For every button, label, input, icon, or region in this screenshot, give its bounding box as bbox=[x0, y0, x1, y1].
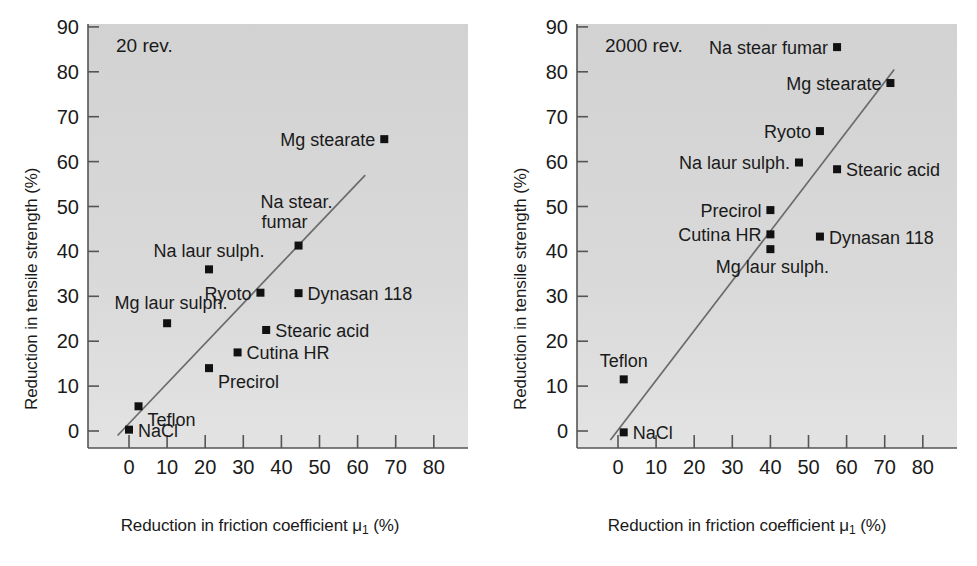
x-axis-title-text: Reduction in friction coefficient bbox=[121, 516, 348, 535]
data-point-marker bbox=[295, 242, 303, 250]
x-axis-tick-label: 20 bbox=[194, 456, 216, 478]
y-axis-tick-label: 60 bbox=[57, 151, 79, 173]
data-point-label: Ryoto bbox=[204, 284, 251, 304]
y-axis-tick-label: 90 bbox=[546, 16, 568, 38]
x-axis-tick-label: 30 bbox=[721, 456, 743, 478]
x-axis-title-text: Reduction in friction coefficient bbox=[608, 516, 835, 535]
y-axis-tick-label: 80 bbox=[546, 61, 568, 83]
panel-title: 20 rev. bbox=[116, 35, 173, 56]
data-point-marker bbox=[295, 289, 303, 297]
y-axis-tick-label: 90 bbox=[57, 16, 79, 38]
data-point-marker bbox=[234, 348, 242, 356]
data-point-marker bbox=[163, 319, 171, 327]
y-axis-tick-label: 0 bbox=[557, 420, 568, 442]
data-point-label: Na stear fumar bbox=[709, 38, 828, 58]
x-axis-tick-label: 0 bbox=[123, 456, 134, 478]
y-axis-tick-label: 10 bbox=[546, 375, 568, 397]
x-axis-title-unit: (%) bbox=[373, 516, 399, 535]
x-axis-tick-label: 10 bbox=[645, 456, 667, 478]
x-axis-title: Reduction in friction coefficient μ1 (%) bbox=[60, 516, 460, 537]
x-axis-tick-label: 80 bbox=[423, 456, 445, 478]
figure-two-panel-scatter: 01020304050607080900102030405060708020 r… bbox=[0, 0, 977, 566]
mu-subscript: 1 bbox=[849, 523, 856, 537]
data-point-label: Precirol bbox=[700, 201, 761, 221]
x-axis-tick-label: 70 bbox=[874, 456, 896, 478]
data-point-marker bbox=[833, 165, 841, 173]
x-axis-tick-label: 60 bbox=[346, 456, 368, 478]
x-axis-tick-label: 30 bbox=[232, 456, 254, 478]
x-axis-tick-label: 50 bbox=[797, 456, 819, 478]
y-axis-tick-label: 80 bbox=[57, 61, 79, 83]
data-point-label: Na laur sulph. bbox=[153, 241, 264, 261]
data-point-label: Dynasan 118 bbox=[829, 228, 934, 248]
mu-symbol: μ bbox=[839, 516, 849, 535]
data-point-label: Stearic acid bbox=[846, 160, 940, 180]
data-point-label: Cutina HR bbox=[247, 343, 330, 363]
y-axis-tick-label: 30 bbox=[546, 285, 568, 307]
data-point-label: Stearic acid bbox=[275, 321, 369, 341]
data-point-label: Cutina HR bbox=[678, 225, 761, 245]
y-axis-tick-label: 40 bbox=[546, 240, 568, 262]
data-point-label: Ryoto bbox=[764, 122, 811, 142]
x-axis-tick-label: 40 bbox=[759, 456, 781, 478]
data-point-marker bbox=[766, 245, 774, 253]
data-point-label: fumar bbox=[262, 212, 308, 232]
x-axis-title-unit: (%) bbox=[860, 516, 886, 535]
data-point-label: Na laur sulph. bbox=[679, 153, 790, 173]
data-point-marker bbox=[833, 43, 841, 51]
data-point-marker bbox=[205, 364, 213, 372]
data-point-marker bbox=[620, 428, 628, 436]
data-point-label: Teflon bbox=[148, 410, 196, 430]
data-point-label: Na stear. bbox=[261, 192, 333, 212]
y-axis-tick-label: 70 bbox=[546, 106, 568, 128]
scatter-plot-2000-rev: 0102030405060708090010203040506070802000… bbox=[489, 0, 977, 566]
data-point-marker bbox=[816, 233, 824, 241]
data-point-marker bbox=[256, 289, 264, 297]
y-axis-tick-label: 0 bbox=[68, 420, 79, 442]
data-point-label: Mg stearate bbox=[786, 74, 881, 94]
y-axis-tick-label: 40 bbox=[57, 240, 79, 262]
data-point-marker bbox=[816, 127, 824, 135]
chart-panel-2000-rev: 0102030405060708090010203040506070802000… bbox=[489, 0, 977, 566]
data-point-label: Teflon bbox=[600, 351, 648, 371]
y-axis-title: Reduction in tensile strength (%) bbox=[511, 168, 531, 410]
y-axis-tick-label: 50 bbox=[57, 196, 79, 218]
data-point-label: Dynasan 118 bbox=[308, 284, 413, 304]
x-axis-tick-label: 50 bbox=[308, 456, 330, 478]
x-axis-tick-label: 0 bbox=[612, 456, 623, 478]
data-point-label: Precirol bbox=[218, 372, 279, 392]
data-point-label: Mg laur sulph. bbox=[716, 257, 829, 277]
chart-panel-20-rev: 01020304050607080900102030405060708020 r… bbox=[0, 0, 488, 566]
data-point-marker bbox=[766, 206, 774, 214]
data-point-marker bbox=[886, 79, 894, 87]
y-axis-tick-label: 60 bbox=[546, 151, 568, 173]
data-point-label: NaCl bbox=[633, 423, 673, 443]
x-axis-tick-label: 40 bbox=[270, 456, 292, 478]
x-axis-title: Reduction in friction coefficient μ1 (%) bbox=[547, 516, 947, 537]
x-axis-tick-label: 80 bbox=[912, 456, 934, 478]
data-point-marker bbox=[766, 230, 774, 238]
x-axis-tick-label: 20 bbox=[683, 456, 705, 478]
data-point-marker bbox=[380, 135, 388, 143]
x-axis-tick-label: 10 bbox=[156, 456, 178, 478]
x-axis-tick-label: 60 bbox=[835, 456, 857, 478]
y-axis-tick-label: 20 bbox=[546, 330, 568, 352]
data-point-marker bbox=[262, 326, 270, 334]
data-point-marker bbox=[620, 375, 628, 383]
y-axis-tick-label: 30 bbox=[57, 285, 79, 307]
x-axis-tick-label: 70 bbox=[385, 456, 407, 478]
panel-title: 2000 rev. bbox=[605, 35, 683, 56]
y-axis-tick-label: 50 bbox=[546, 196, 568, 218]
y-axis-tick-label: 20 bbox=[57, 330, 79, 352]
y-axis-tick-label: 70 bbox=[57, 106, 79, 128]
scatter-plot-20-rev: 01020304050607080900102030405060708020 r… bbox=[0, 0, 488, 566]
y-axis-tick-label: 10 bbox=[57, 375, 79, 397]
mu-symbol: μ bbox=[352, 516, 362, 535]
mu-subscript: 1 bbox=[362, 523, 369, 537]
y-axis-title: Reduction in tensile strength (%) bbox=[22, 168, 42, 410]
data-point-marker bbox=[795, 158, 803, 166]
data-point-label: Mg stearate bbox=[280, 130, 375, 150]
data-point-marker bbox=[135, 402, 143, 410]
data-point-marker bbox=[205, 265, 213, 273]
data-point-marker bbox=[125, 426, 133, 434]
